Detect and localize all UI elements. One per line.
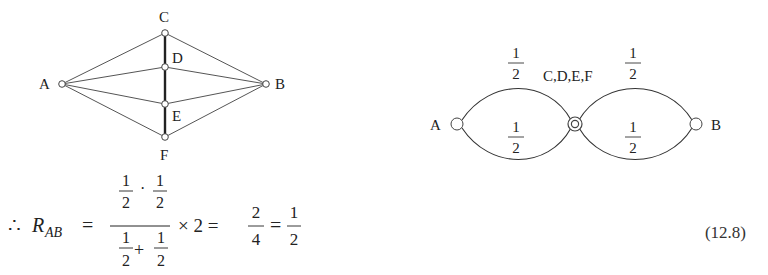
label-merged-node: C,D,E,F bbox=[543, 68, 593, 84]
label-c: C bbox=[159, 9, 169, 25]
svg-text:1: 1 bbox=[512, 45, 520, 61]
svg-text:2: 2 bbox=[290, 230, 299, 249]
svg-text:2: 2 bbox=[122, 252, 130, 269]
svg-text:2: 2 bbox=[156, 194, 164, 211]
edge-a-f bbox=[62, 84, 165, 137]
node-e bbox=[162, 101, 169, 108]
node-a bbox=[59, 81, 66, 88]
svg-text:+: + bbox=[134, 240, 144, 260]
label-a-right: A bbox=[430, 117, 441, 133]
svg-text:=: = bbox=[270, 214, 281, 236]
svg-text:1: 1 bbox=[629, 119, 637, 135]
node-b bbox=[263, 81, 270, 88]
edge-a-c bbox=[62, 33, 165, 84]
svg-text:4: 4 bbox=[252, 230, 261, 249]
svg-text:2: 2 bbox=[629, 140, 637, 156]
label-a: A bbox=[39, 76, 50, 92]
svg-text:2: 2 bbox=[512, 66, 520, 82]
svg-text:2: 2 bbox=[122, 194, 130, 211]
resistor-b-top: 1 2 bbox=[625, 45, 641, 82]
arc-a-top bbox=[462, 89, 571, 121]
node-f bbox=[162, 134, 169, 141]
edge-b-d bbox=[165, 67, 266, 84]
svg-text:1: 1 bbox=[156, 172, 164, 189]
label-b: B bbox=[275, 76, 285, 92]
label-d: D bbox=[172, 50, 183, 66]
merged-node-inner bbox=[571, 120, 578, 127]
svg-text:=: = bbox=[82, 214, 93, 236]
node-b-right bbox=[690, 118, 702, 130]
node-d bbox=[162, 64, 169, 71]
edge-a-d bbox=[62, 67, 165, 84]
node-c bbox=[162, 30, 169, 37]
resistance-equation: ∴ R AB = 1 2 · 1 2 1 2 + 1 2 × 2 = 2 4 =… bbox=[8, 172, 301, 269]
svg-text:2: 2 bbox=[629, 66, 637, 82]
svg-text:1: 1 bbox=[122, 172, 130, 189]
svg-text:∴: ∴ bbox=[8, 214, 21, 236]
figure-canvas: A B C D E F A B C,D,E,F 1 2 1 2 1 2 1 2 … bbox=[0, 0, 768, 275]
svg-text:2: 2 bbox=[157, 252, 165, 269]
edge-b-e bbox=[165, 84, 266, 104]
svg-text:1: 1 bbox=[290, 203, 299, 222]
equation-number: (12.8) bbox=[705, 223, 746, 243]
resistor-b-bottom: 1 2 bbox=[625, 119, 641, 156]
svg-text:2: 2 bbox=[252, 203, 261, 222]
label-f: F bbox=[160, 147, 168, 163]
label-e: E bbox=[172, 108, 181, 124]
edge-a-e bbox=[62, 84, 165, 104]
svg-text:·: · bbox=[140, 180, 145, 197]
svg-text:1: 1 bbox=[122, 229, 130, 246]
left-circuit-diagram bbox=[62, 33, 266, 137]
node-a-right bbox=[451, 118, 463, 130]
svg-text:AB: AB bbox=[44, 225, 63, 240]
resistor-a-bottom: 1 2 bbox=[508, 119, 524, 156]
svg-text:1: 1 bbox=[157, 229, 165, 246]
svg-text:1: 1 bbox=[512, 119, 520, 135]
arc-b-top bbox=[579, 89, 692, 121]
svg-text:2: 2 bbox=[512, 140, 520, 156]
svg-text:1: 1 bbox=[629, 45, 637, 61]
label-b-right: B bbox=[711, 117, 721, 133]
svg-text:× 2 =: × 2 = bbox=[178, 215, 218, 236]
svg-text:R: R bbox=[31, 214, 44, 236]
resistor-a-top: 1 2 bbox=[508, 45, 524, 82]
